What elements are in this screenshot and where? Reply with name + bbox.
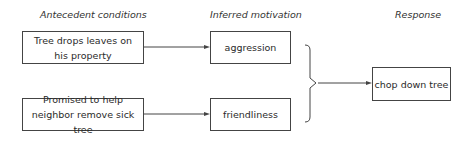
antecedent-label: Promised to help neighbor remove sick tr…	[27, 92, 139, 137]
motivation-label: aggression	[225, 40, 277, 55]
motivation-box-friendliness: friendliness	[210, 98, 291, 131]
brace-icon	[305, 45, 316, 122]
response-label: chop down tree	[375, 77, 449, 92]
motivation-box-aggression: aggression	[210, 31, 291, 64]
antecedent-box-2: Promised to help neighbor remove sick tr…	[22, 98, 144, 131]
antecedent-label: Tree drops leaves on his property	[29, 33, 137, 63]
response-box: chop down tree	[372, 67, 451, 101]
motivation-label: friendliness	[223, 107, 278, 122]
antecedent-box-1: Tree drops leaves on his property	[22, 31, 144, 64]
